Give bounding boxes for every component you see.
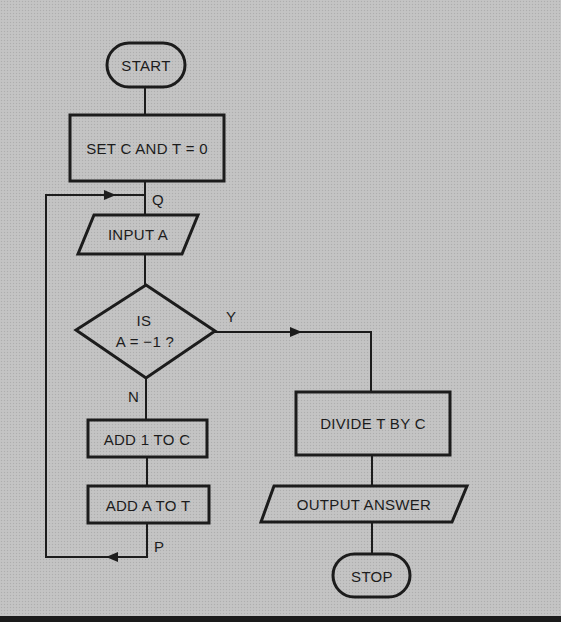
decision-diamond: IS A = −1 ? bbox=[76, 285, 215, 378]
add-t-label: ADD A TO T bbox=[106, 497, 191, 514]
connector-label-q: Q bbox=[152, 191, 164, 208]
stop-label: STOP bbox=[351, 568, 393, 585]
init-process-box: SET C AND T = 0 bbox=[70, 115, 224, 181]
stop-terminal: STOP bbox=[333, 554, 410, 597]
arrow-right-icon bbox=[104, 190, 116, 200]
arrow-left-icon bbox=[106, 552, 118, 562]
connector-label-no: N bbox=[128, 388, 139, 405]
input-io-parallelogram: INPUT A bbox=[78, 215, 198, 254]
start-terminal: START bbox=[107, 43, 185, 87]
connector-label-yes: Y bbox=[226, 308, 236, 325]
flowchart: START SET C AND T = 0 Q INPUT A IS A = −… bbox=[0, 0, 584, 637]
connector-yes-divide bbox=[215, 332, 371, 391]
decision-label-line1: IS bbox=[137, 312, 152, 329]
add-t-process-box: ADD A TO T bbox=[88, 486, 209, 523]
start-label: START bbox=[121, 57, 170, 74]
input-label: INPUT A bbox=[108, 226, 168, 243]
output-io-parallelogram: OUTPUT ANSWER bbox=[261, 486, 467, 522]
output-label: OUTPUT ANSWER bbox=[297, 496, 431, 513]
connector-label-p: P bbox=[154, 538, 164, 555]
divide-label: DIVIDE T BY C bbox=[320, 415, 426, 432]
add-c-process-box: ADD 1 TO C bbox=[88, 420, 207, 457]
decision-label-line2: A = −1 ? bbox=[116, 333, 174, 350]
divide-process-box: DIVIDE T BY C bbox=[296, 392, 450, 455]
init-label: SET C AND T = 0 bbox=[86, 140, 208, 157]
add-c-label: ADD 1 TO C bbox=[104, 431, 191, 448]
arrow-right-icon bbox=[290, 327, 302, 337]
